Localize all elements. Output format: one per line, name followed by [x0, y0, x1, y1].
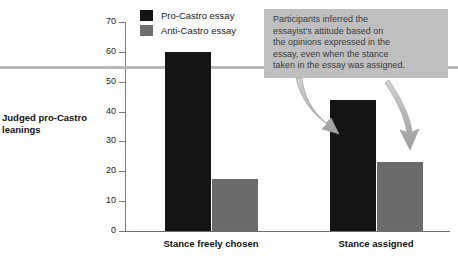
- legend-item-anti-castro: Anti-Castro essay: [140, 23, 236, 38]
- y-tick-label: 30: [96, 136, 116, 145]
- legend-label-anti: Anti-Castro essay: [161, 25, 236, 36]
- y-tick-mark: [119, 141, 125, 142]
- y-tick-mark: [119, 52, 125, 53]
- x-axis-label-2: Stance assigned: [296, 238, 456, 249]
- annotation-line-4: essay, even when the stance: [273, 49, 440, 61]
- y-tick-label: 40: [96, 107, 116, 116]
- annotation-callout: Participants inferred the essayist's att…: [264, 9, 448, 78]
- y-tick-label: 70: [96, 17, 116, 26]
- annotation-line-5: taken in the essay was assigned.: [273, 60, 440, 72]
- y-tick-mark: [119, 171, 125, 172]
- legend-item-pro-castro: Pro-Castro essay: [140, 8, 236, 23]
- legend-swatch-icon-pro: [140, 10, 153, 21]
- arrow-to-anti-castro-bar: [385, 80, 419, 150]
- bar-anti-castro-group-1: [212, 179, 258, 231]
- annotation-text: Participants inferred the essayist's att…: [273, 14, 440, 72]
- y-axis-title-line-2: leanings: [2, 124, 98, 136]
- y-axis-title: Judged pro-Castro leanings: [2, 112, 98, 135]
- y-tick-mark: [119, 112, 125, 113]
- y-tick-mark: [119, 22, 125, 23]
- chart-figure: Judged pro-Castro leanings 0102030405060…: [0, 0, 458, 257]
- legend-label-pro: Pro-Castro essay: [161, 10, 234, 21]
- y-tick-label: 10: [96, 196, 116, 205]
- legend: Pro-Castro essay Anti-Castro essay: [140, 8, 236, 38]
- y-tick-mark: [119, 201, 125, 202]
- bar-anti-castro-group-2: [377, 162, 423, 231]
- y-axis-title-line-1: Judged pro-Castro: [2, 112, 98, 124]
- annotation-line-1: Participants inferred the: [273, 14, 440, 26]
- y-tick-mark: [119, 82, 125, 83]
- legend-swatch-icon-anti: [140, 25, 153, 36]
- y-axis-line: [125, 22, 126, 232]
- y-tick-mark: [119, 231, 125, 232]
- bar-pro-castro-group-2: [330, 100, 376, 231]
- annotation-line-2: essayist's attitude based on: [273, 26, 440, 38]
- y-tick-label: 0: [96, 226, 116, 235]
- y-tick-label: 60: [96, 47, 116, 56]
- y-tick-label: 20: [96, 166, 116, 175]
- y-tick-label: 50: [96, 77, 116, 86]
- annotation-line-3: the opinions expressed in the: [273, 37, 440, 49]
- x-axis-line: [125, 231, 450, 232]
- x-axis-label-1: Stance freely chosen: [131, 238, 291, 249]
- bar-pro-castro-group-1: [165, 52, 211, 231]
